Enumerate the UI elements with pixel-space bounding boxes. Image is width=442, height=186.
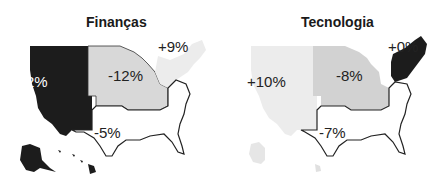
- region-hawaii: [58, 150, 96, 174]
- us-map-tecnologia: [221, 0, 442, 186]
- region-alaska: [20, 144, 56, 172]
- label-south: -5%: [94, 124, 121, 141]
- map-tecnologia: Tecnologia +10% -8% +0% -7%: [221, 0, 442, 186]
- region-hawaii: [315, 164, 321, 172]
- label-west: -2%: [21, 73, 48, 90]
- label-northeast: +0%: [388, 38, 418, 55]
- label-midwest: -8%: [336, 67, 363, 84]
- label-northeast: +9%: [158, 38, 188, 55]
- us-map-financas: [0, 0, 221, 186]
- region-west: [30, 46, 92, 136]
- label-south: -7%: [319, 124, 346, 141]
- map-financas: Finanças -2% -12% +9% -5%: [0, 0, 221, 186]
- region-west: [251, 46, 317, 136]
- label-midwest: -12%: [108, 67, 143, 84]
- label-west: +10%: [247, 73, 286, 90]
- region-alaska: [249, 142, 265, 164]
